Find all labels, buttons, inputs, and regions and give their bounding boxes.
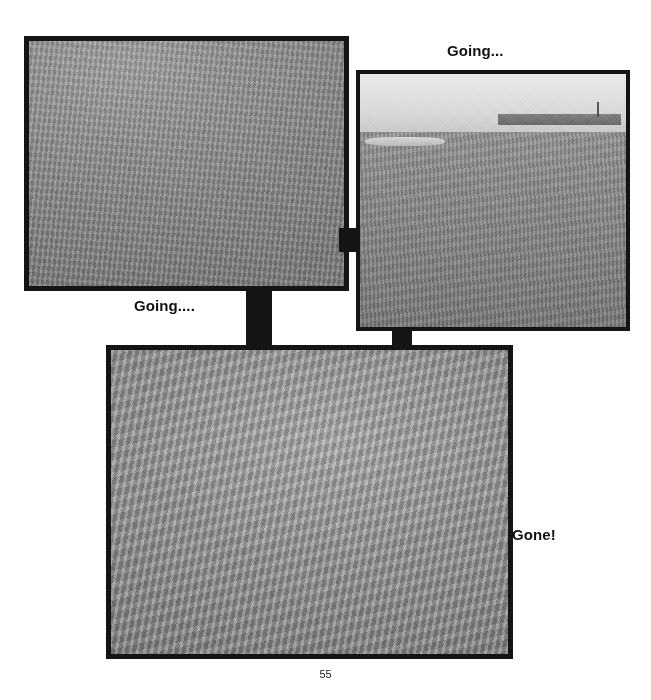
photo-lying-dog-image [111, 350, 508, 654]
caption-going-top-right: Going... [447, 42, 504, 59]
photo-running-dog-image [29, 41, 344, 286]
connector-photo2-photo3 [392, 327, 412, 348]
connector-photo1-photo2 [339, 228, 359, 252]
photo-grain-overlay [29, 41, 344, 286]
connector-photo1-photo3 [246, 288, 272, 348]
photo-grain-overlay [360, 74, 626, 327]
photo-running-dog [24, 36, 349, 291]
photo-lying-dog [106, 345, 513, 659]
photo-grain-overlay [111, 350, 508, 654]
caption-going-middle-left: Going.... [134, 297, 195, 314]
photo-sitting-dog-image [360, 74, 626, 327]
photo-sitting-dog [356, 70, 630, 331]
caption-gone-bottom-right: Gone! [512, 526, 556, 543]
page-number: 55 [0, 668, 651, 680]
document-page: Going... Going.... Gone! 55 [0, 0, 651, 700]
